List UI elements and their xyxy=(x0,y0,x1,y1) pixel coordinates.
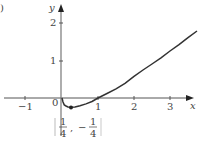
origin-label: 0 xyxy=(52,97,58,108)
minus-sign: − xyxy=(78,122,86,133)
x-tick-label: 1 xyxy=(95,101,101,112)
y-tick-label: 2 xyxy=(50,17,56,28)
fraction-denominator: 4 xyxy=(60,128,66,139)
fraction-numerator: 1 xyxy=(90,116,96,127)
y-tick-label: 1 xyxy=(50,55,56,66)
x-tick-label: 3 xyxy=(167,101,173,112)
x-tick-label: −1 xyxy=(18,101,33,112)
x-tick-label: 2 xyxy=(131,101,137,112)
x-axis-label: x xyxy=(190,100,196,111)
comma: , xyxy=(70,122,73,133)
fraction-numerator: 1 xyxy=(60,116,66,127)
minimum-point-marker xyxy=(69,106,73,110)
function-curve xyxy=(62,31,197,107)
graph: ) x y −1 1 2 3 0 2 1 1 4 , − 1 4 xyxy=(0,0,207,141)
minimum-point-label: 1 4 , − 1 4 xyxy=(55,116,101,139)
part-label: ) xyxy=(0,2,4,13)
fraction-denominator: 4 xyxy=(90,128,96,139)
y-axis-arrow-icon xyxy=(58,4,64,12)
y-axis-label: y xyxy=(48,2,55,13)
